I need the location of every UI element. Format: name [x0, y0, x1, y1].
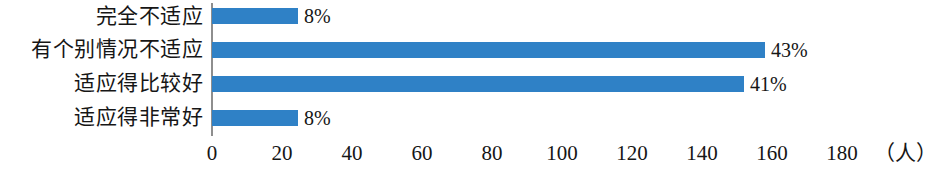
category-axis-labels: 完全不适应 有个别情况不适应 适应得比较好 适应得非常好 — [0, 0, 206, 136]
bar — [212, 8, 298, 24]
x-tick-label: 100 — [546, 138, 578, 168]
x-tick-label: 180 — [826, 138, 858, 168]
plot-area: 8% 43% 41% 8% — [212, 0, 903, 136]
x-tick-label: 80 — [482, 138, 503, 168]
x-tick-label: 140 — [686, 138, 718, 168]
category-label: 完全不适应 — [96, 1, 204, 31]
x-tick-label: 40 — [342, 138, 363, 168]
x-tick-label: 160 — [756, 138, 788, 168]
bar-value-label: 8% — [304, 1, 331, 31]
bar-value-label: 43% — [771, 35, 808, 65]
category-label: 有个别情况不适应 — [31, 34, 203, 64]
bar-value-label: 8% — [304, 103, 331, 133]
category-label: 适应得非常好 — [74, 102, 203, 132]
category-label: 适应得比较好 — [74, 68, 203, 98]
x-tick-label: 0 — [207, 138, 218, 168]
x-axis-tick-labels: 0 20 40 60 80 100 120 140 160 180 （人） — [212, 138, 903, 170]
bar — [212, 110, 298, 126]
x-tick-label: 120 — [616, 138, 648, 168]
x-tick-label: 20 — [272, 138, 293, 168]
bar — [212, 42, 765, 58]
bar-value-label: 41% — [750, 69, 787, 99]
x-tick-label: 60 — [412, 138, 433, 168]
x-axis-unit-label: （人） — [874, 138, 928, 168]
bar — [212, 76, 744, 92]
